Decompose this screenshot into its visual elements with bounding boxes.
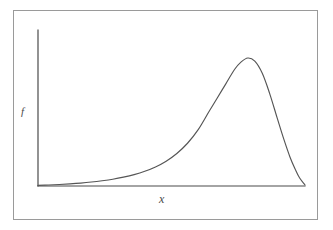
- data-series-group: [38, 58, 305, 185]
- x-axis-label: x: [159, 193, 164, 205]
- axes-group: [38, 30, 305, 186]
- plot-area: [0, 0, 333, 230]
- y-axis-label: f: [21, 106, 24, 117]
- figure-container: f x: [0, 0, 333, 230]
- density-curve-path: [38, 58, 305, 185]
